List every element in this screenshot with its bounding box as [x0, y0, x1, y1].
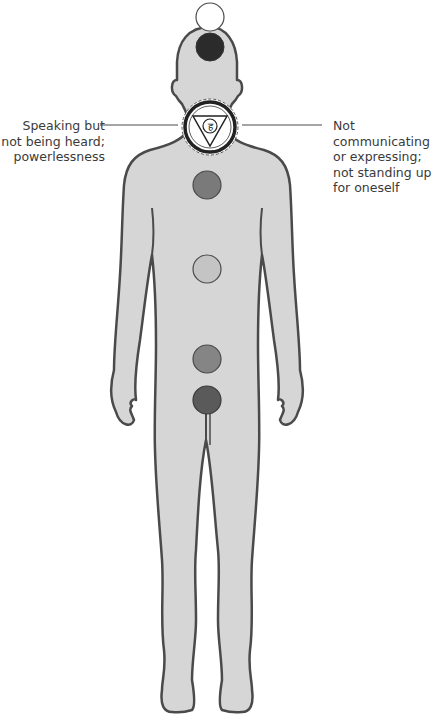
left-annotation: Speaking but not being heard; powerlessn… [0, 118, 105, 165]
chakra-body-diagram: ह [0, 0, 436, 726]
throat-chakra-symbol: ह [182, 99, 238, 155]
solar-plexus-chakra [193, 255, 221, 283]
sacral-chakra [193, 345, 221, 373]
third-eye-chakra [196, 33, 224, 61]
right-annotation: Not communicating or expressing; not sta… [333, 118, 436, 196]
heart-chakra [193, 171, 221, 199]
root-chakra [193, 386, 221, 414]
crown-chakra [196, 3, 224, 31]
